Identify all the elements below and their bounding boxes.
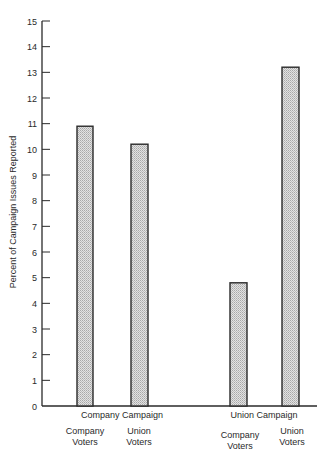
y-tick-label: 14 bbox=[27, 42, 37, 52]
y-tick-label: 11 bbox=[28, 119, 37, 129]
y-axis-label: Percent of Campaign Issues Reported bbox=[8, 136, 18, 289]
y-tick-label: 1 bbox=[32, 376, 37, 386]
category-label-union-voters-1: Union bbox=[127, 426, 151, 436]
category-label-union-voters-1-line2: Voters bbox=[126, 437, 152, 447]
category-label-company-voters-1-line2: Voters bbox=[72, 437, 98, 447]
y-tick-label: 4 bbox=[32, 299, 37, 309]
category-label-company-voters-1: Company bbox=[66, 426, 105, 436]
y-tick-label: 3 bbox=[32, 325, 37, 335]
y-tick-label: 8 bbox=[32, 196, 37, 206]
bar-chart: Percent of Campaign Issues Reported 0123… bbox=[0, 0, 329, 451]
y-tick-label: 13 bbox=[27, 68, 37, 78]
y-tick-label: 2 bbox=[32, 350, 37, 360]
bar-union-campaign-company-voters bbox=[230, 283, 247, 406]
bar-union-campaign-union-voters bbox=[282, 67, 299, 406]
y-tick-label: 10 bbox=[27, 145, 37, 155]
y-tick-label: 12 bbox=[27, 94, 37, 104]
group-label-company-campaign: Company Campaign bbox=[81, 410, 163, 420]
category-label-union-voters-2: Union bbox=[280, 426, 304, 436]
y-axis-ticks: 0123456789101112131415 bbox=[27, 17, 50, 412]
y-tick-label: 15 bbox=[27, 17, 37, 27]
category-label-company-voters-2: Company bbox=[221, 430, 260, 440]
bars bbox=[77, 67, 299, 406]
bar-company-campaign-company-voters bbox=[77, 126, 93, 406]
y-tick-label: 5 bbox=[32, 273, 37, 283]
bar-company-campaign-union-voters bbox=[131, 144, 148, 406]
y-tick-label: 0 bbox=[32, 402, 37, 412]
y-tick-label: 9 bbox=[32, 171, 37, 181]
y-tick-label: 6 bbox=[32, 248, 37, 258]
y-tick-label: 7 bbox=[32, 222, 37, 232]
category-label-company-voters-2-line2: Voters bbox=[227, 441, 253, 451]
category-label-union-voters-2-line2: Voters bbox=[279, 437, 305, 447]
group-label-union-campaign: Union Campaign bbox=[230, 410, 297, 420]
